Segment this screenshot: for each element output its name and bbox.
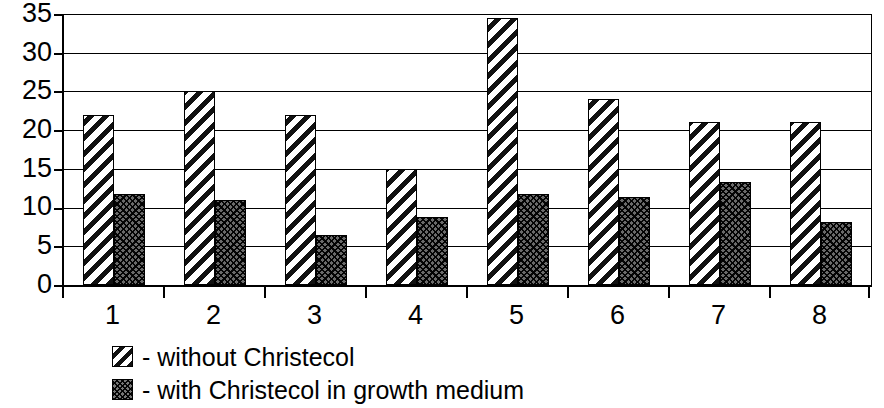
- y-tick-mark: [54, 14, 64, 16]
- x-tick-mark: [668, 287, 670, 298]
- y-axis-tick-label: 15: [8, 155, 52, 182]
- x-tick-mark: [62, 287, 64, 298]
- legend-item-with-christecol: - with Christecol in growth medium: [112, 373, 812, 406]
- x-axis-tick-label: 1: [62, 300, 163, 330]
- bar-series2: [619, 197, 650, 285]
- y-axis-tick-label: 25: [8, 77, 52, 104]
- legend-item-without-christecol: - without Christecol: [112, 340, 812, 373]
- x-axis-tick-label: 3: [264, 300, 365, 330]
- x-axis-tick-label: 8: [769, 300, 870, 330]
- bar-series1: [689, 122, 720, 285]
- bar-series1: [487, 18, 518, 285]
- bar-group: [468, 14, 569, 285]
- bar-series1: [83, 115, 114, 285]
- bar-series2: [518, 194, 549, 285]
- y-axis-tick-label: 30: [8, 39, 52, 66]
- bar-series2: [720, 182, 751, 285]
- x-axis-tick-label: 6: [567, 300, 668, 330]
- x-axis-tick-label: 5: [466, 300, 567, 330]
- bar-group: [771, 14, 872, 285]
- y-axis-tick-label: 35: [8, 0, 52, 27]
- bar-chart: 35 30 25 20 15 10 5 0: [0, 0, 884, 408]
- bar-group: [367, 14, 468, 285]
- bar-group: [569, 14, 670, 285]
- x-axis-tick-label: 2: [163, 300, 264, 330]
- dotted-crosshatch-swatch-icon: [112, 379, 133, 400]
- x-tick-mark: [365, 287, 367, 298]
- y-axis-tick-label: 10: [8, 193, 52, 220]
- bar-group: [670, 14, 771, 285]
- x-tick-mark: [163, 287, 165, 298]
- x-tick-mark: [264, 287, 266, 298]
- bar-series2: [417, 217, 448, 285]
- diagonal-hatch-swatch-icon: [112, 346, 133, 367]
- y-axis-tick-label: 0: [8, 271, 52, 298]
- bar-group: [165, 14, 266, 285]
- bar-series2: [215, 200, 246, 285]
- plot-area: [62, 14, 872, 287]
- y-tick-mark: [54, 130, 64, 132]
- bar-series1: [588, 99, 619, 285]
- x-axis-ticks: [62, 287, 870, 299]
- bar-group: [266, 14, 367, 285]
- y-axis-tick-label: 5: [8, 232, 52, 259]
- y-axis-labels: 35 30 25 20 15 10 5 0: [0, 0, 52, 300]
- x-tick-mark: [868, 287, 870, 298]
- bar-series2: [114, 194, 145, 285]
- x-axis-tick-label: 4: [365, 300, 466, 330]
- y-tick-mark: [54, 91, 64, 93]
- bar-series1: [285, 115, 316, 285]
- legend-label: - with Christecol in growth medium: [142, 376, 524, 404]
- y-tick-mark: [54, 53, 64, 55]
- x-axis-labels: 1 2 3 4 5 6 7 8: [62, 300, 870, 336]
- legend-label: - without Christecol: [142, 343, 355, 371]
- bar-group: [64, 14, 165, 285]
- bar-series1: [184, 91, 215, 285]
- x-tick-mark: [466, 287, 468, 298]
- bar-series2: [821, 222, 852, 285]
- chart-legend: - without Christecol - with Christecol i…: [112, 340, 812, 406]
- y-tick-mark: [54, 169, 64, 171]
- bar-series1: [386, 169, 417, 285]
- x-tick-mark: [769, 287, 771, 298]
- bar-series2: [316, 235, 347, 285]
- y-axis-tick-label: 20: [8, 116, 52, 143]
- y-tick-mark: [54, 208, 64, 210]
- x-tick-mark: [567, 287, 569, 298]
- bar-series1: [790, 122, 821, 285]
- y-tick-mark: [54, 246, 64, 248]
- x-axis-tick-label: 7: [668, 300, 769, 330]
